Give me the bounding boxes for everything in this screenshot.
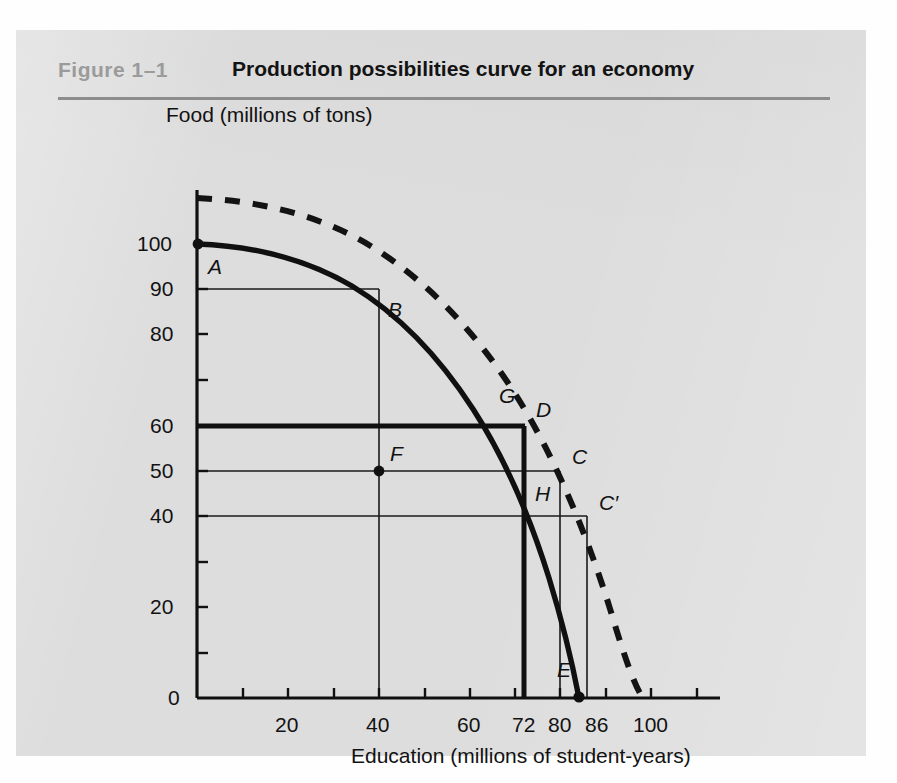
y-tick-label-90: 90 xyxy=(150,278,173,299)
chart-plot-area: Food (millions of tons) 100 90 80 60 50 … xyxy=(16,102,866,756)
x-tick-label-60: 60 xyxy=(457,714,480,735)
y-axis-ticks xyxy=(197,244,208,653)
x-tick-label-40: 40 xyxy=(366,714,389,735)
chart-svg xyxy=(16,102,866,756)
y-tick-label-50: 50 xyxy=(150,460,173,481)
point-label-H: H xyxy=(535,483,550,504)
y-tick-label-80: 80 xyxy=(150,323,173,344)
point-label-C: C xyxy=(572,446,587,467)
figure-title: Production possibilities curve for an ec… xyxy=(232,57,694,81)
y-tick-label-20: 20 xyxy=(150,596,173,617)
figure-header: Figure 1–1 Production possibilities curv… xyxy=(16,30,866,102)
guide-lines-thin xyxy=(197,289,587,698)
y-tick-label-0: 0 xyxy=(168,687,180,708)
point-label-A: A xyxy=(208,256,222,277)
point-label-F: F xyxy=(390,443,403,464)
x-tick-label-80: 80 xyxy=(548,714,571,735)
x-tick-label-100: 100 xyxy=(633,714,668,735)
y-axis-title: Food (millions of tons) xyxy=(166,104,373,125)
header-divider xyxy=(58,97,830,100)
guide-lines-thick xyxy=(197,426,525,699)
x-tick-label-86: 86 xyxy=(585,714,608,735)
y-tick-label-100: 100 xyxy=(137,233,172,254)
figure-panel: Figure 1–1 Production possibilities curv… xyxy=(16,30,866,756)
point-label-C-prime: C′ xyxy=(599,492,618,513)
point-label-B: B xyxy=(388,299,402,320)
y-tick-label-40: 40 xyxy=(150,505,173,526)
x-tick-label-72: 72 xyxy=(512,714,535,735)
point-label-G: G xyxy=(499,385,515,406)
point-marker-E xyxy=(573,691,584,702)
y-tick-label-60: 60 xyxy=(150,415,173,436)
point-marker-F xyxy=(374,466,385,477)
point-marker-A xyxy=(193,239,204,250)
point-label-D: D xyxy=(536,399,551,420)
x-tick-label-20: 20 xyxy=(275,714,298,735)
figure-number-label: Figure 1–1 xyxy=(58,58,168,82)
point-label-E: E xyxy=(557,659,571,680)
x-axis-title: Education (millions of student-years) xyxy=(351,745,691,766)
axis-lines xyxy=(197,190,720,698)
page-background: Figure 1–1 Production possibilities curv… xyxy=(0,0,897,783)
